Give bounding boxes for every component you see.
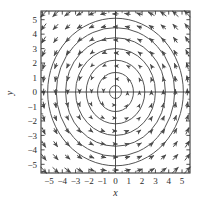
x-tick-label: −2 — [84, 176, 94, 186]
x-axis-title: x — [112, 187, 118, 198]
x-tick-labels: −5−4−3−2−1012345 — [44, 176, 185, 186]
x-tick-label: −3 — [71, 176, 81, 186]
x-tick-label: −4 — [58, 176, 68, 186]
x-tick-label: 2 — [140, 176, 145, 186]
x-tick-label: 1 — [127, 176, 132, 186]
x-tick-label: 4 — [166, 176, 171, 186]
y-tick-label: 2 — [33, 58, 38, 68]
y-tick-label: 0 — [33, 87, 38, 97]
x-tick-label: −1 — [97, 176, 107, 186]
y-tick-label: 5 — [33, 15, 38, 25]
x-tick-label: 0 — [113, 176, 118, 186]
y-tick-labels: 543210−1−2−3−4−5 — [27, 15, 37, 170]
y-tick-label: −4 — [27, 145, 37, 155]
x-tick-label: 3 — [153, 176, 158, 186]
phase-portrait-figure: −5−4−3−2−1012345 543210−1−2−3−4−5 x y — [0, 0, 208, 212]
y-axis-title: y — [4, 90, 15, 96]
y-tick-label: 1 — [33, 73, 38, 83]
y-tick-label: −3 — [27, 131, 37, 141]
y-tick-label: −1 — [27, 102, 37, 112]
direction-field-plot: −5−4−3−2−1012345 543210−1−2−3−4−5 x y — [0, 0, 208, 212]
y-tick-label: −2 — [27, 116, 37, 126]
y-tick-label: 3 — [33, 44, 38, 54]
y-tick-label: 4 — [33, 29, 38, 39]
x-tick-label: −5 — [44, 176, 54, 186]
x-tick-label: 5 — [180, 176, 185, 186]
y-tick-label: −5 — [27, 160, 37, 170]
